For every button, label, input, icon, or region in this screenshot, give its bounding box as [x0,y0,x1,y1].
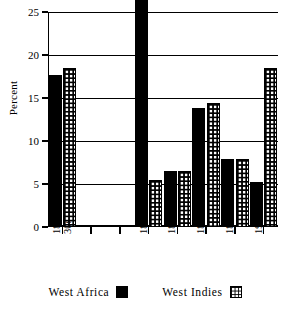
x-tick-2 [119,227,120,234]
solid-black-square-icon [116,286,128,298]
x-axis-label-6-0: 1890s [224,209,235,234]
y-tick-25 [42,11,48,12]
bar-chart: Percent 0510152025 1820s/30s1860s1870s18… [0,0,290,310]
y-tick-label-0: 0 [34,221,40,233]
y-tick-label-25: 25 [28,6,39,18]
legend-label-west-africa: West Africa [48,286,109,298]
bar-west-indies-7 [264,68,277,227]
y-tick-label-5: 5 [34,178,40,190]
x-axis-label-7-0: 1900s [253,209,264,234]
x-axis-label-0-1: 30s [62,219,73,234]
x-axis-label-4-0: 1870s [166,209,177,234]
grid-hatch-square-icon [230,286,242,298]
x-axis-label-5-0: 1880s [195,209,206,234]
chart-legend: West Africa West Indies [0,286,290,298]
legend-label-west-indies: West Indies [162,286,222,298]
gridline-25 [48,12,278,13]
y-tick-0 [42,226,48,227]
bar-west-indies-5 [207,103,220,227]
bar-west-africa-3 [135,0,148,227]
legend-item-west-africa: West Africa [48,286,128,298]
gridline-20 [48,55,278,56]
y-tick-5 [42,183,48,184]
x-tick-1 [90,227,91,234]
bar-west-indies-4 [178,171,191,227]
x-axis-label-0-0: 1820s/ [51,206,62,234]
gridline-15 [48,98,278,99]
bar-west-indies-0 [63,68,76,227]
y-axis-title: Percent [7,63,19,133]
gridline-10 [48,141,278,142]
y-tick-10 [42,140,48,141]
y-tick-20 [42,54,48,55]
plot-area: 0510152025 [48,12,278,227]
y-tick-15 [42,97,48,98]
y-tick-label-10: 10 [28,135,39,147]
bar-west-indies-6 [236,159,249,227]
x-axis-label-3-0: 1860s [138,209,149,234]
legend-item-west-indies: West Indies [162,286,241,298]
y-tick-label-20: 20 [28,49,39,61]
bar-west-africa-0 [49,75,62,227]
y-tick-label-15: 15 [28,92,39,104]
bar-west-indies-3 [149,180,162,227]
